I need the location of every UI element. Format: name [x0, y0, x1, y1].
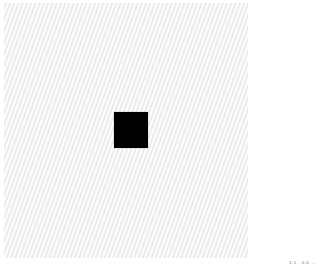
black-square [114, 112, 148, 148]
